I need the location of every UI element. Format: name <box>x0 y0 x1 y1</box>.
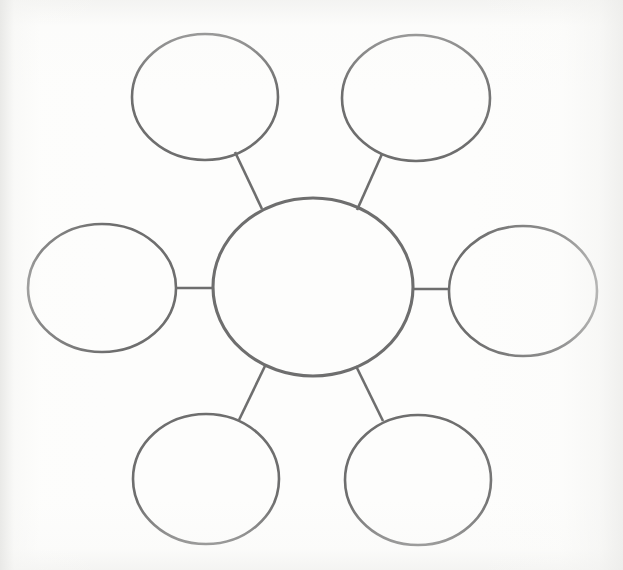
worksheet-page <box>0 0 623 570</box>
bubble-outline-bottom-right[interactable] <box>345 415 491 545</box>
concept-map-canvas[interactable] <box>0 0 623 570</box>
bubble-outline-center[interactable] <box>213 198 413 376</box>
bubble-outline-right[interactable] <box>449 226 597 356</box>
bubble-outline-left[interactable] <box>28 224 176 352</box>
spoke-top-left <box>235 152 262 209</box>
satellite-node-left[interactable] <box>28 224 176 352</box>
satellite-node-right[interactable] <box>449 226 597 356</box>
bubble-outline-bottom-left[interactable] <box>133 414 279 544</box>
satellite-node-top-right[interactable] <box>342 35 490 161</box>
spoke-bottom-right <box>356 366 383 421</box>
satellite-node-bottom-right[interactable] <box>345 415 491 545</box>
spoke-top-right <box>357 154 382 210</box>
satellite-node-bottom-left[interactable] <box>133 414 279 544</box>
spoke-group <box>176 152 449 421</box>
center-node[interactable] <box>213 198 413 376</box>
bubble-outline-top-right[interactable] <box>342 35 490 161</box>
spoke-bottom-left <box>239 366 265 420</box>
satellite-node-top-left[interactable] <box>132 34 278 160</box>
bubble-outline-top-left[interactable] <box>132 34 278 160</box>
